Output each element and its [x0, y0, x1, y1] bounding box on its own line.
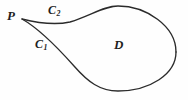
curve-c2-subscript: 2 [57, 9, 61, 18]
region-d-label: D [114, 38, 124, 51]
figure-container: P C2 C1 D [0, 0, 188, 100]
curve-c1-base: C [35, 37, 43, 51]
curve-c2-label: C2 [48, 4, 60, 16]
curve-c1-subscript: 1 [44, 43, 48, 52]
curve-canvas [0, 0, 188, 100]
curve-c2-base: C [48, 3, 56, 17]
point-p-label: P [7, 9, 15, 22]
curve-c1-label: C1 [35, 38, 47, 50]
lower-arc-c1-path [22, 19, 176, 91]
